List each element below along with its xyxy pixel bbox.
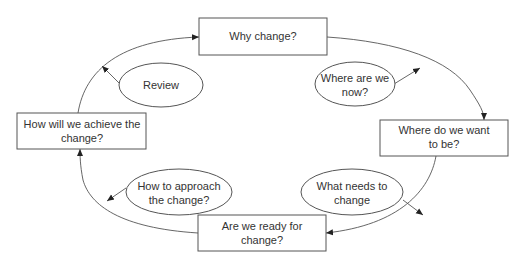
svg-text:How will we achieve the: How will we achieve the [24,118,141,130]
svg-text:change?: change? [241,234,283,246]
svg-text:Why change?: Why change? [229,30,296,42]
arrow-where-now [394,68,420,84]
arrow-what-needs [403,200,423,215]
svg-text:the change?: the change? [149,194,210,206]
ellipse-what-needs: What needs to change [301,169,403,215]
svg-text:to be?: to be? [429,138,460,150]
arrow-how-approach [107,188,126,201]
svg-text:change: change [334,194,370,206]
svg-text:change?: change? [61,132,103,144]
box-how-achieve: How will we achieve the change? [17,113,146,149]
svg-text:Where do we want: Where do we want [398,124,489,136]
ellipse-where-now: Where are we now? [315,62,395,106]
svg-text:Where are we: Where are we [321,72,389,84]
ellipse-how-approach: How to approach the change? [126,169,232,215]
box-why-change: Why change? [199,18,327,55]
ellipse-review: Review [119,63,203,107]
box-ready-for-change: Are we ready for change? [198,215,326,251]
svg-text:What needs to: What needs to [317,180,388,192]
arrow-review [102,66,119,83]
svg-text:Review: Review [143,79,179,91]
box-where-want-to-be: Where do we want to be? [380,120,508,156]
svg-text:now?: now? [342,86,368,98]
svg-text:How to approach: How to approach [137,180,220,192]
change-cycle-diagram: Why change? Where do we want to be? Are … [0,0,524,265]
svg-text:Are we ready for: Are we ready for [222,220,303,232]
